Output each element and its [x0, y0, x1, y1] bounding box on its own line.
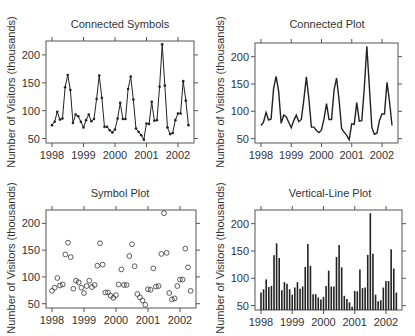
data-point	[150, 100, 153, 103]
data-point	[63, 252, 68, 257]
data-point	[51, 124, 54, 127]
plot-frame	[46, 41, 194, 143]
y-tick-label: 200	[231, 51, 249, 63]
y-tick-label: 200	[22, 49, 40, 61]
data-point	[98, 74, 101, 77]
panel-title: Symbol Plot	[91, 187, 150, 199]
data-point	[106, 126, 109, 129]
x-tick-label: 1999	[72, 314, 96, 326]
y-tick-label: 50	[28, 298, 40, 310]
y-axis-label: Number of Visitors (thousands)	[214, 16, 226, 167]
data-point	[140, 134, 143, 137]
data-point	[167, 291, 172, 296]
panel-title: Connected Symbols	[71, 18, 170, 30]
data-point	[119, 267, 124, 272]
x-tick-label: 2001	[343, 316, 367, 328]
data-point	[84, 284, 89, 289]
y-tick-label: 150	[231, 78, 249, 90]
data-point	[159, 252, 164, 257]
data-point	[111, 131, 114, 134]
data-point	[143, 302, 148, 307]
y-tick-label: 100	[22, 271, 40, 283]
y-tick-label: 50	[237, 133, 249, 145]
data-point	[137, 131, 140, 134]
data-point	[119, 102, 122, 105]
x-tick-label: 1999	[279, 149, 303, 161]
data-point	[135, 292, 140, 297]
data-point	[87, 113, 90, 116]
x-tick-label: 2000	[309, 149, 333, 161]
x-tick-label: 2002	[166, 149, 190, 161]
plot-frame	[255, 43, 398, 143]
data-point	[122, 118, 125, 121]
panel-vertical-line-plot: Vertical-Line Plot Number of Visitors (t…	[214, 182, 406, 333]
data-point	[90, 120, 93, 123]
data-point	[85, 119, 88, 122]
y-tick-label: 100	[231, 105, 249, 117]
data-point	[182, 80, 185, 83]
data-line	[261, 46, 392, 139]
data-point	[161, 43, 164, 46]
data-point	[124, 118, 127, 121]
x-tick-label: 1998	[40, 314, 64, 326]
x-tick-label: 1998	[249, 149, 273, 161]
x-tick-label: 2002	[168, 314, 192, 326]
data-point	[132, 98, 135, 101]
data-point	[174, 119, 177, 122]
data-point	[82, 291, 87, 296]
data-point	[101, 97, 104, 100]
data-point	[66, 74, 69, 77]
y-axis-label: Number of Visitors (thousands)	[5, 16, 17, 167]
data-point	[127, 88, 130, 91]
y-tick-label: 100	[231, 272, 249, 284]
x-tick-label: 2000	[311, 316, 335, 328]
x-tick-label: 2000	[103, 149, 127, 161]
y-tick-label: 200	[22, 217, 40, 229]
data-point	[108, 129, 111, 132]
data-point	[185, 99, 188, 102]
data-point	[132, 264, 137, 269]
y-tick-label: 150	[231, 245, 249, 257]
y-tick-label: 150	[22, 77, 40, 89]
x-tick-label: 2001	[134, 149, 158, 161]
data-point	[87, 278, 92, 283]
data-point	[74, 113, 77, 116]
data-point	[179, 112, 182, 115]
data-point	[188, 288, 193, 293]
data-point	[145, 122, 148, 125]
figure: Connected Symbols Number of Visitors (th…	[0, 0, 415, 336]
data-point	[138, 295, 143, 300]
x-tick-label: 1998	[40, 149, 64, 161]
data-point	[72, 122, 75, 125]
y-tick-label: 150	[22, 244, 40, 256]
data-point	[151, 266, 156, 271]
y-tick-label: 100	[22, 105, 40, 117]
data-point	[135, 127, 138, 130]
data-point	[53, 121, 56, 124]
data-point	[64, 86, 67, 89]
data-point	[169, 133, 172, 136]
data-point	[127, 254, 132, 259]
panel-connected-symbols: Connected Symbols Number of Visitors (th…	[5, 16, 198, 167]
x-tick-label: 1998	[249, 316, 273, 328]
data-point	[186, 265, 191, 270]
x-tick-label: 2001	[340, 149, 364, 161]
data-point	[69, 89, 72, 92]
data-point	[175, 284, 180, 289]
data-point	[50, 288, 55, 293]
panel-symbol-plot: Symbol Plot Number of Visitors (thousand…	[5, 182, 200, 333]
data-point	[95, 98, 98, 101]
data-point	[56, 110, 59, 113]
y-axis-label: Number of Visitors (thousands)	[5, 182, 17, 333]
data-point	[114, 293, 119, 298]
plot-frame	[46, 210, 196, 308]
data-point	[153, 119, 156, 122]
x-tick-label: 2000	[104, 314, 128, 326]
x-tick-label: 2002	[374, 316, 398, 328]
panel-connected-plot: Connected Plot Number of Visitors (thous…	[214, 16, 402, 167]
data-point	[164, 84, 167, 87]
data-point	[158, 85, 161, 88]
data-point	[79, 285, 84, 290]
data-point	[162, 211, 167, 216]
data-point	[183, 246, 188, 251]
